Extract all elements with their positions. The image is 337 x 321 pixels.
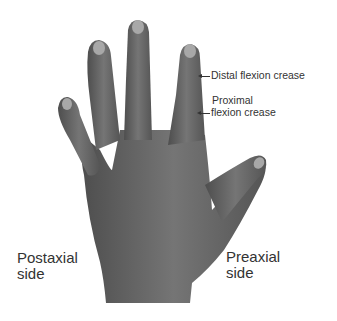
postaxial-label-line1: Postaxial xyxy=(17,250,78,266)
distal-crease-label: Distal flexion crease xyxy=(211,70,305,81)
hand-illustration xyxy=(0,0,337,321)
preaxial-label-line1: Preaxial xyxy=(226,249,280,265)
preaxial-label-line2: side xyxy=(226,265,254,281)
proximal-crease-label-line1: Proximal xyxy=(212,95,253,106)
postaxial-label-line2: side xyxy=(17,266,45,282)
proximal-crease-label-line2: flexion crease xyxy=(211,107,276,118)
proximal-crease-arrow xyxy=(200,113,210,114)
distal-crease-arrow xyxy=(201,76,210,77)
